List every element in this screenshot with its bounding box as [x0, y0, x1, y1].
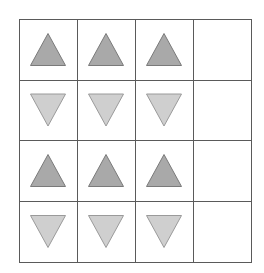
grid-cell [89, 34, 124, 66]
grid-cell [147, 216, 182, 248]
triangle-down-icon [147, 216, 182, 248]
pattern-grid [0, 0, 264, 273]
grid-cell [89, 216, 124, 248]
triangle-up-icon [147, 34, 182, 66]
grid-cell [89, 155, 124, 187]
grid-cell [31, 34, 66, 66]
grid-cell [89, 94, 124, 126]
triangle-up-icon [89, 34, 124, 66]
triangle-up-icon [31, 155, 66, 187]
grid-cell [31, 155, 66, 187]
grid-cell [147, 155, 182, 187]
triangle-down-icon [89, 216, 124, 248]
triangle-up-icon [31, 34, 66, 66]
grid-cell [31, 216, 66, 248]
triangle-up-icon [147, 155, 182, 187]
triangle-up-icon [89, 155, 124, 187]
grid-cell [147, 34, 182, 66]
grid-cell [31, 94, 66, 126]
triangle-down-icon [31, 94, 66, 126]
triangle-down-icon [147, 94, 182, 126]
triangle-down-icon [89, 94, 124, 126]
grid-cell [147, 94, 182, 126]
triangle-down-icon [31, 216, 66, 248]
